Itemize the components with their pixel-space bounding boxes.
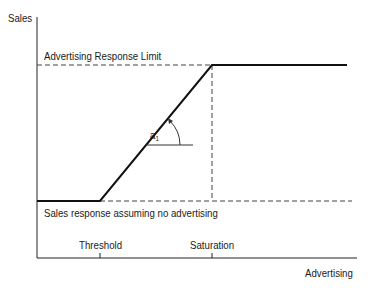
angle-label: a1 bbox=[150, 129, 159, 145]
x-axis-label: Advertising bbox=[305, 267, 353, 279]
angle-arc bbox=[170, 121, 180, 145]
angle-subscript: 1 bbox=[155, 135, 158, 142]
response-curve-diagram bbox=[0, 0, 375, 288]
y-axis-label: Sales bbox=[8, 12, 32, 24]
sales-response-curve bbox=[37, 65, 347, 201]
saturation-label: Saturation bbox=[190, 239, 234, 251]
baseline-label: Sales response assuming no advertising bbox=[44, 207, 218, 219]
response-limit-label: Advertising Response Limit bbox=[44, 50, 161, 62]
threshold-label: Threshold bbox=[79, 239, 122, 251]
